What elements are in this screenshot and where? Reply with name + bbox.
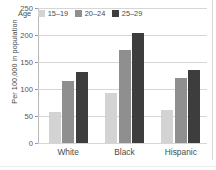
y-axis-tick <box>35 116 38 117</box>
bar-group <box>161 8 200 143</box>
y-axis-tick-label: 50 <box>25 112 33 121</box>
legend-label-20-24: 20–24 <box>85 9 106 18</box>
bar <box>161 110 173 143</box>
bar-chart-figure: Per 100,000 in population 05010015020025… <box>0 0 216 170</box>
legend-swatch-15-19 <box>38 10 45 17</box>
x-axis-tick-label: White <box>57 147 78 157</box>
y-axis-title: Per 100,000 in population <box>10 2 19 122</box>
legend-swatch-20-24 <box>75 10 82 17</box>
y-axis-tick <box>35 143 38 144</box>
figure-frame-bottom <box>0 166 216 167</box>
legend-entry-25-29: 25–29 <box>112 9 142 18</box>
legend-swatch-25-29 <box>112 10 119 17</box>
legend-label-15-19: 15–19 <box>48 9 69 18</box>
legend-entry-20-24: 20–24 <box>75 9 105 18</box>
x-axis-tick-label: Black <box>114 147 134 157</box>
gridline <box>38 143 207 144</box>
y-axis-tick <box>35 35 38 36</box>
y-axis-tick <box>35 89 38 90</box>
bar <box>119 50 131 143</box>
y-axis-line <box>38 8 39 143</box>
x-axis-tick-label: Hispanic <box>165 147 197 157</box>
legend-title: Age <box>18 9 31 18</box>
bar <box>188 70 200 143</box>
y-axis-tick-label: 100 <box>20 85 33 94</box>
bar-group <box>105 8 144 143</box>
bar <box>132 33 144 143</box>
legend-label-25-29: 25–29 <box>122 9 143 18</box>
y-axis-tick-label: 150 <box>20 58 33 67</box>
y-axis-tick-label: 0 <box>29 139 33 148</box>
bar <box>76 72 88 143</box>
y-axis-tick <box>35 62 38 63</box>
figure-frame-right <box>212 0 213 160</box>
legend-entry-15-19: 15–19 <box>38 9 68 18</box>
bar <box>62 81 74 143</box>
bar <box>49 112 61 143</box>
y-axis-tick-label: 200 <box>20 31 33 40</box>
bar-group <box>49 8 88 143</box>
chart-legend: Age 15–19 20–24 25–29 <box>18 9 145 18</box>
plot-area: 050100150200250 <box>38 8 207 143</box>
bar <box>175 78 187 143</box>
bar <box>105 93 117 143</box>
